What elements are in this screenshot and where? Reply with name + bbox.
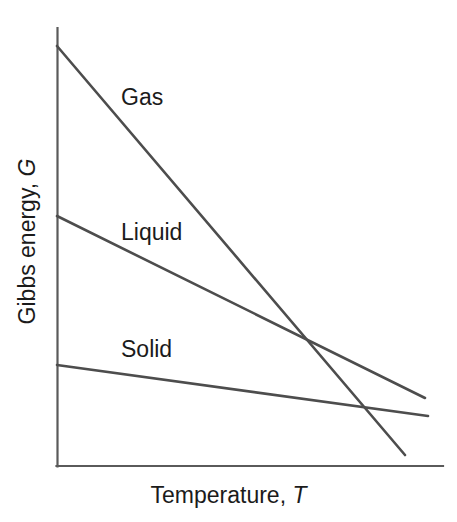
y-axis-title-symbol: G [14,159,40,177]
solid-curve-label: Solid [121,338,172,361]
gibbs-energy-temperature-chart: Gas Liquid Solid Temperature, T Gibbs en… [0,0,457,522]
x-axis-title-symbol: T [292,482,306,508]
y-axis-title-text: Gibbs energy, [14,183,40,324]
x-axis-title-text: Temperature, [151,482,287,508]
liquid-curve-label: Liquid [121,221,182,244]
gas-curve-label: Gas [121,86,163,109]
liquid-curve [57,216,425,398]
x-axis-title: Temperature, T [0,484,457,507]
gas-curve [57,46,405,455]
y-axis-title: Gibbs energy, G [16,152,39,332]
chart-plot-area [0,0,457,522]
